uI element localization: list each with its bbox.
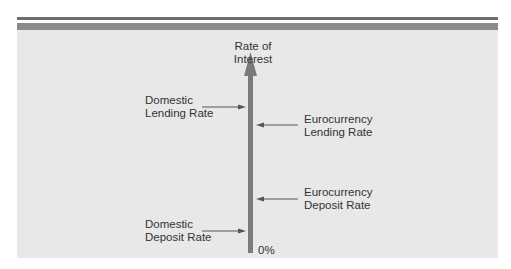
axis-title-line2: Interest	[232, 53, 274, 66]
eurocurrency-deposit-arrow-icon	[256, 197, 298, 202]
rate-axis-arrow-icon	[244, 52, 257, 253]
axis-title: Rate of Interest	[232, 40, 274, 66]
origin-label: 0%	[258, 244, 275, 257]
label-line: Domestic	[145, 94, 213, 107]
label-line: Eurocurrency	[304, 186, 372, 199]
label-line: Deposit Rate	[304, 199, 372, 212]
label-eurocurrency-lending: Eurocurrency Lending Rate	[304, 113, 372, 139]
label-domestic-lending: Domestic Lending Rate	[145, 94, 213, 120]
eurocurrency-lending-arrow-icon	[256, 123, 298, 128]
label-line: Lending Rate	[145, 107, 213, 120]
label-domestic-deposit: Domestic Deposit Rate	[145, 218, 211, 244]
label-line: Eurocurrency	[304, 113, 372, 126]
label-eurocurrency-deposit: Eurocurrency Deposit Rate	[304, 186, 372, 212]
label-line: Domestic	[145, 218, 211, 231]
label-line: Lending Rate	[304, 126, 372, 139]
axis-title-line1: Rate of	[232, 40, 274, 53]
label-line: Deposit Rate	[145, 231, 211, 244]
